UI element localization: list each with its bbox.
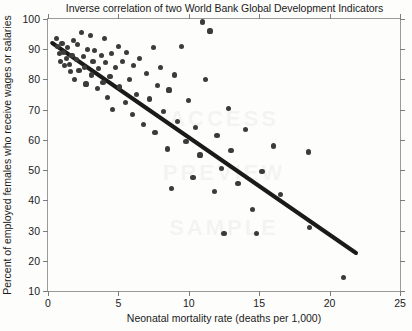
x-axis-tick-label: 5 (115, 297, 121, 309)
x-axis-tick (118, 291, 119, 296)
y-axis-tick (43, 79, 48, 80)
x-axis-tick (259, 291, 260, 296)
y-axis-tick-label: 30 (28, 225, 40, 237)
y-axis-tick (43, 49, 48, 50)
scatter-point (95, 86, 100, 91)
y-axis-tick (43, 170, 48, 171)
scatter-point (152, 130, 157, 135)
scatter-point (172, 72, 177, 77)
scatter-point (161, 109, 166, 114)
y-axis-tick-label: 20 (28, 255, 40, 267)
y-axis-tick (43, 19, 48, 20)
scatter-point (130, 112, 135, 117)
scatter-point (59, 41, 64, 46)
x-axis-tick-top (118, 14, 119, 19)
y-axis-tick (43, 110, 48, 111)
scatter-point (166, 87, 171, 92)
y-axis-tick-right (400, 231, 405, 232)
scatter-point (197, 152, 202, 157)
x-axis-tick-top (48, 14, 49, 19)
x-axis-tick-label: 10 (183, 297, 195, 309)
scatter-point (147, 96, 152, 101)
y-axis-tick-right (400, 110, 405, 111)
scatter-point (207, 28, 212, 33)
x-axis-tick (330, 291, 331, 296)
scatter-point (190, 175, 195, 180)
chart-page: Inverse correlation of two World Bank Gl… (0, 0, 412, 331)
scatter-point (67, 62, 72, 67)
y-axis-tick-label: 100 (22, 13, 40, 25)
scatter-point (64, 56, 69, 61)
scatter-point (306, 149, 311, 154)
scatter-point (219, 166, 224, 171)
scatter-point (89, 72, 94, 77)
scatter-point (226, 106, 231, 111)
scatter-point (85, 47, 90, 52)
scatter-point (137, 56, 142, 61)
plot-area: ACCESS PREVIEW SAMPLE 102030405060708090… (47, 18, 401, 292)
x-axis-tick-label: 0 (45, 297, 51, 309)
scatter-point (83, 81, 88, 86)
scatter-point (271, 143, 276, 148)
y-axis-tick-label: 70 (28, 104, 40, 116)
y-axis-tick-right (400, 140, 405, 141)
scatter-point (278, 192, 283, 197)
scatter-point (76, 68, 81, 73)
x-axis-title: Neonatal mortality rate (deaths per 1,00… (47, 312, 401, 324)
scatter-point (61, 50, 66, 55)
y-axis-tick-label: 90 (28, 43, 40, 55)
y-axis-title: Percent of employed females who receive … (0, 18, 14, 292)
y-axis-tick-label: 40 (28, 194, 40, 206)
scatter-point (221, 231, 226, 236)
scatter-point (90, 59, 95, 64)
scatter-point (259, 169, 264, 174)
y-axis-tick-label: 60 (28, 134, 40, 146)
x-axis-tick (48, 291, 49, 296)
chart-title: Inverse correlation of two World Bank Gl… (47, 0, 402, 17)
scatter-point (250, 207, 255, 212)
x-axis-tick-top (400, 14, 401, 19)
scatter-point (116, 44, 121, 49)
scatter-point (212, 189, 217, 194)
scatter-point (123, 100, 128, 105)
trendline (48, 19, 400, 291)
scatter-point (107, 74, 112, 79)
y-axis-tick-right (400, 200, 405, 201)
x-axis-tick-label: 20 (324, 297, 336, 309)
y-axis-tick (43, 140, 48, 141)
x-axis-tick-top (189, 14, 190, 19)
scatter-point (235, 181, 240, 186)
scatter-point (105, 95, 110, 100)
scatter-point (165, 146, 170, 151)
scatter-point (183, 139, 188, 144)
x-axis-tick-label: 15 (253, 297, 265, 309)
plot-inner (48, 19, 400, 291)
y-axis-tick-label: 80 (28, 73, 40, 85)
y-axis-tick-right (400, 261, 405, 262)
x-axis-tick-top (330, 14, 331, 19)
y-axis-tick-right (400, 79, 405, 80)
y-axis-tick-label: 50 (28, 164, 40, 176)
scatter-point (214, 133, 219, 138)
y-axis-tick-right (400, 19, 405, 20)
y-axis-tick-label: 10 (28, 285, 40, 297)
x-axis-tick (189, 291, 190, 296)
x-axis-tick-top (259, 14, 260, 19)
y-axis-tick (43, 261, 48, 262)
scatter-point (99, 53, 104, 58)
y-axis-tick-right (400, 49, 405, 50)
scatter-point (88, 33, 93, 38)
y-axis-tick-right (400, 170, 405, 171)
y-axis-title-text: Percent of employed females who receive … (1, 15, 13, 295)
x-axis-tick (400, 291, 401, 296)
y-axis-tick (43, 200, 48, 201)
scatter-point (100, 80, 105, 85)
y-axis-tick (43, 231, 48, 232)
scatter-point (243, 127, 248, 132)
x-axis-tick-label: 25 (394, 297, 406, 309)
scatter-point (117, 84, 122, 89)
scatter-point (228, 148, 233, 153)
